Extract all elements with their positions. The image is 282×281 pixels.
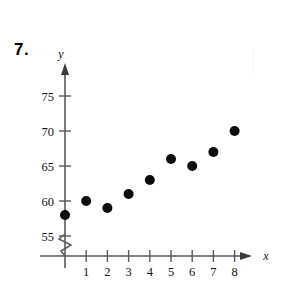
y-tick-label: 65: [42, 160, 55, 174]
x-axis-arrowhead: [240, 252, 252, 260]
x-tick-label: 6: [189, 265, 195, 279]
data-point: [60, 210, 70, 220]
data-points-group: [60, 126, 240, 220]
x-axis-label: x: [262, 249, 269, 263]
x-tick-label: 8: [231, 265, 237, 279]
x-tick-label: 1: [83, 265, 89, 279]
y-axis-label: y: [57, 47, 64, 61]
x-tick-label: 3: [125, 265, 131, 279]
data-point: [102, 203, 112, 213]
data-point: [230, 126, 240, 136]
x-tick-label: 5: [168, 265, 174, 279]
data-point: [124, 189, 134, 199]
data-point: [166, 154, 176, 164]
data-point: [145, 175, 155, 185]
axes-group: [40, 63, 252, 268]
scatter-plot-canvas: 5560657075 12345678 y x: [0, 0, 282, 281]
y-tick-label: 70: [42, 125, 55, 139]
data-point: [208, 147, 218, 157]
data-point: [187, 161, 197, 171]
data-point: [81, 196, 91, 206]
x-tick-label: 2: [104, 265, 110, 279]
y-axis-arrowhead: [61, 63, 69, 75]
x-tick-label: 7: [210, 265, 216, 279]
x-axis-ticks-group: 12345678: [83, 250, 238, 279]
scatter-plot-figure: 7. 5560657075 12345678 y x: [0, 0, 282, 281]
x-tick-label: 4: [147, 265, 154, 279]
y-tick-label: 75: [42, 90, 55, 104]
y-tick-label: 55: [42, 230, 55, 244]
y-tick-label: 60: [42, 195, 55, 209]
y-axis-ticks-group: 5560657075: [42, 90, 72, 244]
